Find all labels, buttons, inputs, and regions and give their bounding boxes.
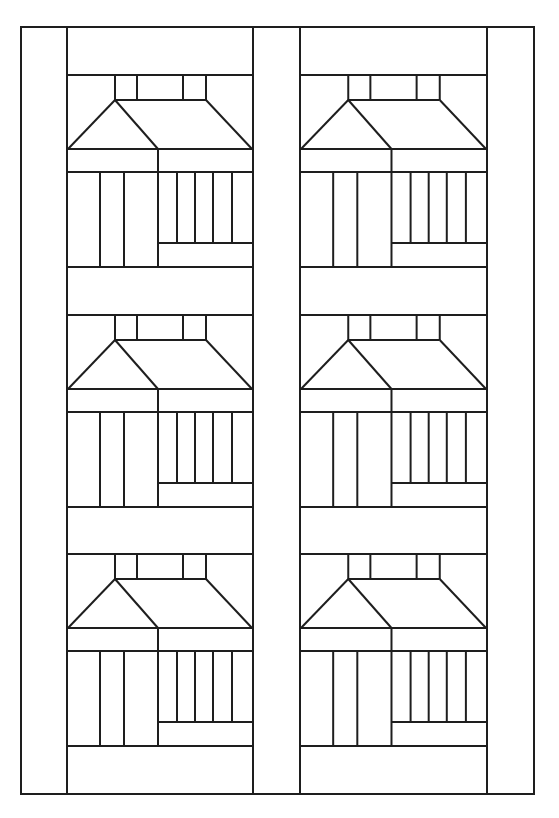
- quilt-frame: [21, 27, 534, 794]
- gable-left-slope: [68, 579, 115, 628]
- roof-right-slope: [440, 100, 486, 149]
- gable-right-slope: [115, 340, 158, 389]
- gable-left-slope: [301, 100, 348, 149]
- outer-border: [21, 27, 534, 794]
- gable-right-slope: [115, 579, 158, 628]
- roof-right-slope: [206, 100, 252, 149]
- gable-right-slope: [115, 100, 158, 149]
- schoolhouse-block-r1-c1: [67, 75, 253, 267]
- schoolhouse-block-r3-c2: [300, 554, 487, 746]
- quilt-diagram: [0, 0, 559, 818]
- schoolhouse-block-r3-c1: [67, 554, 253, 746]
- schoolhouse-block-r1-c2: [300, 75, 487, 267]
- gable-left-slope: [301, 579, 348, 628]
- gable-right-slope: [348, 579, 391, 628]
- roof-right-slope: [440, 340, 486, 389]
- gable-right-slope: [348, 100, 391, 149]
- schoolhouse-blocks: [67, 75, 487, 746]
- roof-right-slope: [206, 579, 252, 628]
- schoolhouse-block-r2-c2: [300, 315, 487, 507]
- gable-left-slope: [68, 100, 115, 149]
- gable-right-slope: [348, 340, 391, 389]
- gable-left-slope: [301, 340, 348, 389]
- schoolhouse-block-r2-c1: [67, 315, 253, 507]
- roof-right-slope: [440, 579, 486, 628]
- gable-left-slope: [68, 340, 115, 389]
- roof-right-slope: [206, 340, 252, 389]
